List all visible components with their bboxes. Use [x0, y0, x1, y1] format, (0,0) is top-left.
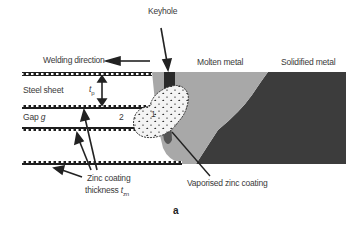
- bottom-sheet-lower-coating: [22, 161, 182, 165]
- panel-label: a: [173, 205, 178, 216]
- welding-direction-label: Welding direction: [43, 55, 105, 65]
- region-2-label: 2: [119, 112, 124, 122]
- keyhole-label: Keyhole: [148, 6, 177, 16]
- zinc-thickness-subscript: zn: [123, 191, 129, 197]
- sheet-thickness-subscript: p: [91, 90, 94, 96]
- diagram-graphic: [0, 0, 357, 229]
- zinc-thickness-text: thickness: [85, 185, 119, 195]
- top-sheet-lower-coating: [22, 105, 150, 109]
- welding-diagram: Keyhole Welding direction Molten metal S…: [0, 0, 357, 229]
- gap-label: Gap g: [23, 112, 45, 122]
- sheet-thickness-label: tp: [89, 84, 94, 96]
- solidified-metal-label: Solidified metal: [281, 57, 335, 67]
- zinc-coating-label-line1: Zinc coating: [87, 173, 130, 183]
- molten-metal-label: Molten metal: [197, 57, 243, 67]
- gap-symbol: g: [41, 112, 46, 122]
- top-sheet-upper-coating: [22, 72, 152, 76]
- bottom-sheet-upper-coating: [22, 127, 140, 131]
- vaporised-zinc-label: Vaporised zinc coating: [187, 178, 268, 188]
- region-1-label: 1: [151, 109, 156, 119]
- gap-text: Gap: [23, 112, 38, 122]
- steel-sheet-label: Steel sheet: [23, 85, 63, 95]
- zinc-coating-label-line2: thickness tzn: [85, 185, 129, 197]
